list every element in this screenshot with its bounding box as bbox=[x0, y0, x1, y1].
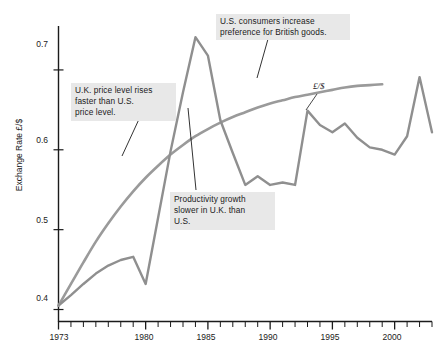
y-tick-label-0.7: 0.7 bbox=[22, 39, 48, 49]
chart-canvas bbox=[0, 0, 436, 355]
x-tick-label-2000: 2000 bbox=[375, 332, 409, 342]
y-tick-label-0.6: 0.6 bbox=[22, 135, 48, 145]
exchange-rate-chart: Exchange Rate £/$ 0.7 0.6 0.5 0.4 1973 1… bbox=[0, 0, 436, 355]
x-tick-label-1990: 1990 bbox=[251, 332, 285, 342]
y-tick-label-0.4: 0.4 bbox=[22, 293, 48, 303]
annotation-uk-price-level: U.K. price level rises faster than U.S. … bbox=[71, 83, 176, 121]
x-tick-label-1985: 1985 bbox=[189, 332, 223, 342]
series-inline-label: £/$ bbox=[313, 81, 325, 91]
chart-background bbox=[0, 0, 436, 355]
x-tick-label-1980: 1980 bbox=[127, 332, 161, 342]
annotation-us-consumer-preference: U.S. consumers increase preference for B… bbox=[216, 14, 350, 40]
x-tick-label-1973: 1973 bbox=[42, 332, 76, 342]
y-axis-title: Exchange Rate £/$ bbox=[14, 90, 24, 220]
y-tick-label-0.5: 0.5 bbox=[22, 215, 48, 225]
annotation-productivity-growth: Productivity growth slower in U.K. than … bbox=[170, 192, 275, 230]
x-tick-label-1995: 1995 bbox=[313, 332, 347, 342]
